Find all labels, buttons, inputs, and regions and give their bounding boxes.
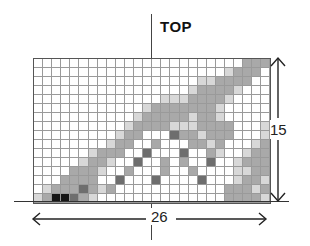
height-dimension-label: 15 bbox=[270, 120, 287, 139]
width-dimension-label: 26 bbox=[149, 208, 170, 225]
